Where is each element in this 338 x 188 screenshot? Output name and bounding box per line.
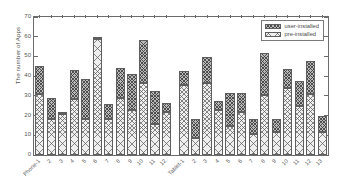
x-tick-mark [143,15,144,18]
bar [47,98,56,155]
y-axis-title: The number of Apps [14,1,21,111]
x-tick-mark [218,152,219,155]
x-tick-mark [184,152,185,155]
x-tick-mark [166,15,167,18]
x-tick-mark [310,15,311,18]
x-tick-mark [195,152,196,155]
bar [162,103,171,155]
x-tick-mark [264,15,265,18]
x-tick-mark [108,15,109,18]
y-tick-mark [34,56,38,57]
bar-segment-pre-installed [283,88,292,155]
bar-segment-pre-installed [93,39,102,155]
bar-segment-pre-installed [179,85,188,155]
bar-segment-pre-installed [127,110,136,155]
bar-segment-pre-installed [116,98,125,155]
bar-segment-user-installed [104,104,113,119]
bar [116,68,125,155]
bar [306,61,315,155]
chart-figure: The number of Apps 010203040506070 user-… [0,0,338,188]
y-tick-mark [324,36,328,37]
x-tick-mark [310,152,311,155]
bar [260,53,269,155]
bar-segment-user-installed [93,37,102,39]
x-tick-mark [74,15,75,18]
x-tick-mark [131,15,132,18]
bar-segment-pre-installed [35,94,44,155]
bar-segment-user-installed [35,66,44,94]
bar-segment-pre-installed [70,99,79,155]
x-tick-mark [131,152,132,155]
x-tick-mark [143,152,144,155]
y-tick-label: 20 [24,112,31,118]
bar-segment-pre-installed [306,94,315,155]
plot-area: 010203040506070 user-installed pre-insta… [33,16,329,156]
legend-item-user-installed: user-installed [265,23,319,31]
legend-label-pre-installed: pre-installed [285,31,317,39]
y-tick-label: 70 [24,13,31,19]
x-tick-mark [97,152,98,155]
bar [295,81,304,155]
x-tick-mark [51,152,52,155]
x-tick-mark [264,152,265,155]
x-tick-mark [241,15,242,18]
bar [139,40,148,155]
bar-segment-user-installed [306,61,315,94]
bar-segment-user-installed [202,57,211,83]
y-tick-label: 60 [24,33,31,39]
bar-segment-pre-installed [260,95,269,155]
bar-segment-user-installed [295,81,304,106]
bar [272,119,281,155]
x-tick-mark [39,15,40,18]
bar-segment-user-installed [214,101,223,110]
legend-label-user-installed: user-installed [285,23,319,31]
bar-segment-user-installed [179,71,188,85]
x-tick-mark [108,152,109,155]
x-tick-mark [207,152,208,155]
bar-segment-user-installed [116,68,125,98]
bar [127,74,136,155]
bar-segment-pre-installed [295,106,304,155]
legend-swatch-user-installed [265,24,281,29]
x-tick-mark [276,15,277,18]
bar-segment-user-installed [318,116,327,133]
y-tick-mark [34,17,38,18]
x-tick-mark [241,152,242,155]
bar [150,91,159,155]
y-tick-label: 0 [28,151,31,157]
y-axis-tick: 70 [34,16,328,17]
x-tick-mark [97,15,98,18]
bar-segment-user-installed [81,79,90,118]
x-tick-mark [299,152,300,155]
bar-segment-pre-installed [81,119,90,155]
x-tick-mark [218,15,219,18]
bar-segment-user-installed [139,40,148,83]
x-tick-mark [85,15,86,18]
bar-segment-user-installed [127,74,136,109]
bar-segment-pre-installed [47,119,56,155]
bar [104,104,113,155]
bar [202,57,211,155]
bar [81,79,90,155]
legend-item-pre-installed: pre-installed [265,31,319,39]
bar-segment-user-installed [58,112,67,114]
x-tick-mark [276,152,277,155]
bar-segment-user-installed [191,119,200,139]
bar-segment-user-installed [283,69,292,88]
bar-segment-pre-installed [104,119,113,155]
y-tick-label: 50 [24,52,31,58]
bar-segment-user-installed [225,93,234,127]
x-tick-mark [62,15,63,18]
x-tick-mark [51,15,52,18]
bar [58,112,67,155]
x-tick-mark [154,15,155,18]
bar-segment-user-installed [162,103,171,112]
bar-segment-user-installed [47,98,56,119]
x-tick-mark [253,15,254,18]
x-tick-mark [120,152,121,155]
y-tick-label: 10 [24,131,31,137]
bar [249,119,258,155]
bar [214,101,223,155]
bar [70,70,79,155]
x-tick-mark [62,152,63,155]
